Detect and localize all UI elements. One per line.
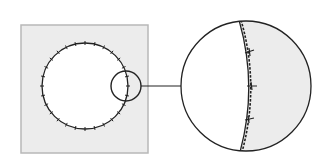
detail-panel (181, 20, 320, 152)
wound-circle (42, 43, 128, 129)
overview-panel (21, 25, 148, 153)
diagram-canvas (0, 0, 325, 164)
